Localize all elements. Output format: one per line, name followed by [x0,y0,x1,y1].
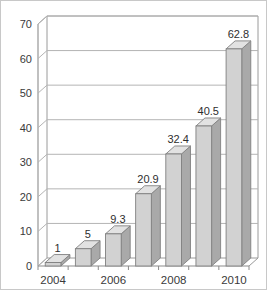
bar-side-face [151,186,160,266]
chart-container: 010203040506070 2004200620082010 159.320… [0,0,267,290]
value-label-2006: 9.3 [110,213,125,225]
value-label-2010: 62.8 [228,28,249,40]
value-label-2004: 1 [55,242,61,254]
value-label-2009: 40.5 [198,105,219,117]
bar-2009 [196,118,221,266]
x-tick-label-2006: 2006 [101,274,127,286]
gridline-connector [38,85,47,93]
y-tick-label-30: 30 [20,156,32,168]
bar-side-face [242,41,251,266]
bar-front-face [75,249,91,266]
y-tick-label-60: 60 [20,53,32,65]
y-tick-label-0: 0 [26,260,32,272]
bar-front-face [136,194,152,266]
bar-2007 [136,186,161,266]
bar-front-face [166,154,182,266]
x-tick-label-2010: 2010 [221,274,247,286]
bar-2008 [166,146,191,266]
y-tick-label-50: 50 [20,87,32,99]
x-tick-label-2004: 2004 [40,274,66,286]
bar-front-face [106,234,122,266]
bar-chart: 010203040506070 2004200620082010 159.320… [1,1,267,290]
gridline-connector [38,223,47,231]
y-axis: 010203040506070 [20,18,32,272]
x-axis-depth-edge [249,258,258,266]
x-tick-label-2008: 2008 [161,274,187,286]
bar-side-face [212,118,221,266]
y-tick-label-10: 10 [20,225,32,237]
value-label-2007: 20.9 [137,173,158,185]
bar-2006 [106,226,131,266]
gridline-connector [38,51,47,59]
bar-2010 [226,41,251,266]
y-tick-label-20: 20 [20,191,32,203]
bar-front-face [196,126,212,266]
bar-front-face [226,49,242,266]
gridline-connector [38,120,47,128]
bar-front-face [45,263,61,266]
gridline-connector [38,16,47,24]
bar-side-face [181,146,190,266]
y-tick-label-70: 70 [20,18,32,30]
gridline-connector [38,154,47,162]
gridline-connector [38,189,47,197]
y-tick-label-40: 40 [20,122,32,134]
value-label-2008: 32.4 [167,133,188,145]
value-label-2005: 5 [85,228,91,240]
